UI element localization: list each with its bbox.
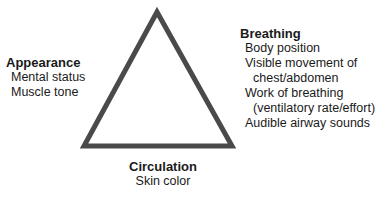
breathing-section: Breathing Body position Visible movement… xyxy=(240,26,375,131)
appearance-title: Appearance xyxy=(6,55,85,70)
appearance-section: Appearance Mental status Muscle tone xyxy=(6,55,85,100)
appearance-item: Mental status xyxy=(6,70,85,85)
breathing-item: Audible airway sounds xyxy=(240,116,375,131)
breathing-item: Visible movement of xyxy=(240,56,375,71)
breathing-item: (ventilatory rate/effort) xyxy=(240,101,375,116)
appearance-item: Muscle tone xyxy=(6,85,85,100)
circulation-title: Circulation xyxy=(128,159,198,174)
circulation-item: Skin color xyxy=(128,174,198,189)
breathing-item: Work of breathing xyxy=(240,86,375,101)
triangle-shape xyxy=(84,12,232,146)
circulation-section: Circulation Skin color xyxy=(128,159,198,189)
breathing-item: Body position xyxy=(240,41,375,56)
breathing-item: chest/abdomen xyxy=(240,71,375,86)
breathing-title: Breathing xyxy=(240,26,375,41)
